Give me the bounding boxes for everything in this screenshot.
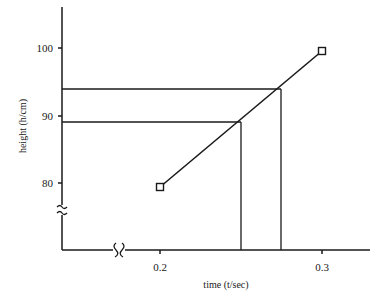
- x-tick-label: 0.2: [153, 261, 167, 273]
- y-axis-title: height (h/cm): [17, 99, 29, 153]
- height-time-chart: 100 90 80 0.2 0.3 time (t/sec) height (h…: [0, 0, 386, 302]
- x-axis-break-icon: [114, 243, 118, 257]
- x-axis-break-icon: [120, 243, 124, 257]
- y-axis-break-icon: [57, 206, 67, 209]
- square-marker-icon: [319, 48, 326, 55]
- y-tick-label: 80: [42, 177, 54, 189]
- chart-canvas: 100 90 80 0.2 0.3 time (t/sec) height (h…: [0, 0, 386, 302]
- y-tick-label: 100: [37, 42, 54, 54]
- y-tick-label: 90: [42, 110, 54, 122]
- square-marker-icon: [157, 184, 164, 191]
- x-tick-label: 0.3: [315, 261, 329, 273]
- x-axis-title: time (t/sec): [203, 279, 248, 291]
- y-axis-break-icon: [57, 212, 67, 215]
